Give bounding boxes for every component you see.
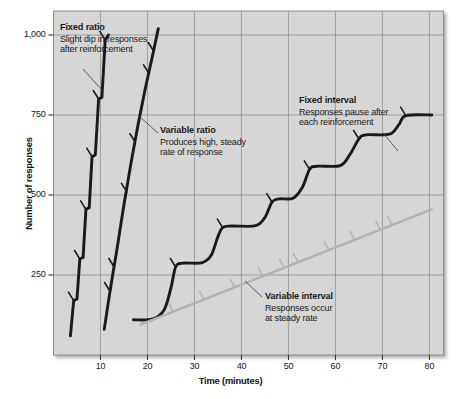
x-axis-title: Time (minutes) <box>0 375 461 386</box>
annotation-variable-ratio-description: Produces high, steady rate of response <box>160 137 246 158</box>
annotation-fixed-interval: Fixed interval Responses pause after eac… <box>299 95 388 128</box>
y-tick-label-250: 250 <box>6 269 46 279</box>
annotation-fixed-ratio-description: Slight dip in responses after reinforcem… <box>60 34 147 55</box>
x-tick-label-50: 50 <box>273 361 303 371</box>
reinforcement-schedules-figure: Number of responses Time (minutes) 25050… <box>0 0 461 399</box>
annotation-fixed-interval-description: Responses pause after each reinforcement <box>299 107 388 128</box>
x-tick-label-10: 10 <box>85 361 115 371</box>
annotation-variable-interval: Variable interval Responses occur at ste… <box>265 291 333 324</box>
y-tick-label-750: 750 <box>6 109 46 119</box>
x-tick-label-70: 70 <box>367 361 397 371</box>
x-tick-label-20: 20 <box>132 361 162 371</box>
annotation-variable-interval-title: Variable interval <box>265 291 333 302</box>
x-tick-label-80: 80 <box>414 361 444 371</box>
plot-area <box>54 11 444 355</box>
annotation-variable-ratio-title: Variable ratio <box>160 125 246 136</box>
annotation-variable-interval-description: Responses occur at steady rate <box>265 303 333 324</box>
annotation-fixed-ratio-title: Fixed ratio <box>60 22 147 33</box>
annotation-variable-ratio: Variable ratio Produces high, steady rat… <box>160 125 246 158</box>
annotation-fixed-ratio: Fixed ratio Slight dip in responses afte… <box>60 22 147 55</box>
x-tick-label-60: 60 <box>320 361 350 371</box>
x-tick-label-40: 40 <box>226 361 256 371</box>
x-tick-label-30: 30 <box>179 361 209 371</box>
y-tick-label-1,000: 1,000 <box>6 29 46 39</box>
annotation-fixed-interval-title: Fixed interval <box>299 95 388 106</box>
chart-canvas <box>0 0 461 399</box>
y-tick-label-500: 500 <box>6 189 46 199</box>
y-axis-title: Number of responses <box>23 99 34 269</box>
